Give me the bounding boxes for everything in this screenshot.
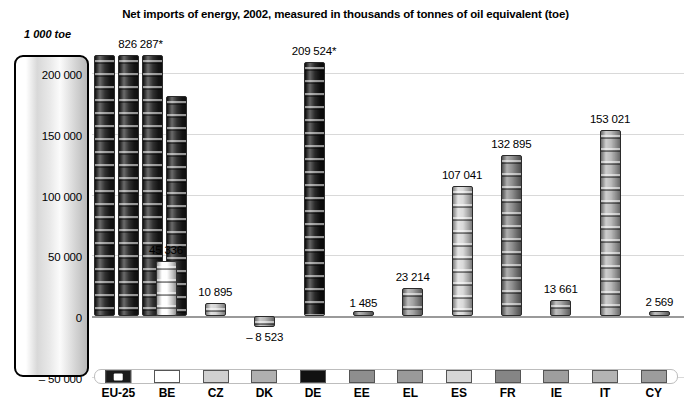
bar-column[interactable] bbox=[649, 311, 670, 316]
color-swatch-icon bbox=[154, 370, 180, 383]
y-axis-tick-label: 0 bbox=[76, 312, 82, 324]
legend-item-cy[interactable]: CY bbox=[641, 369, 667, 400]
y-axis-tick-label: 200 000 bbox=[42, 69, 82, 81]
legend-label: FR bbox=[495, 386, 521, 400]
bar-cy[interactable]: 2 569 bbox=[92, 55, 684, 377]
y-axis-tick-label: 150 000 bbox=[42, 130, 82, 142]
legend-item-de[interactable]: DE bbox=[300, 369, 326, 400]
y-axis-tick-label: 100 000 bbox=[42, 191, 82, 203]
legend-label: EL bbox=[397, 386, 423, 400]
legend-label: EE bbox=[349, 386, 375, 400]
bar-value-label: 826 287* bbox=[118, 38, 162, 50]
legend-label: BE bbox=[154, 386, 180, 400]
legend-item-ie[interactable]: IE bbox=[543, 369, 569, 400]
plot-area: 826 287*45 33610 895– 8 523209 524*1 485… bbox=[92, 55, 684, 377]
legend-item-ee[interactable]: EE bbox=[349, 369, 375, 400]
color-swatch-icon bbox=[349, 370, 375, 383]
legend-label: EU-25 bbox=[102, 386, 136, 400]
color-swatch-icon bbox=[251, 370, 277, 383]
page-title: Net imports of energy, 2002, measured in… bbox=[0, 8, 691, 20]
legend-track bbox=[94, 369, 678, 384]
color-swatch-icon bbox=[495, 370, 521, 383]
legend-item-be[interactable]: BE bbox=[154, 369, 180, 400]
color-swatch-icon bbox=[446, 370, 472, 383]
bar-value-label: 2 569 bbox=[645, 296, 673, 308]
y-axis-tick-label: – 50 000 bbox=[39, 373, 82, 385]
legend-label: DE bbox=[300, 386, 326, 400]
color-swatch-icon bbox=[543, 370, 569, 383]
y-axis-tick-label: 50 000 bbox=[48, 251, 82, 263]
legend-item-el[interactable]: EL bbox=[397, 369, 423, 400]
color-swatch-icon bbox=[203, 370, 229, 383]
color-swatch-icon bbox=[592, 370, 618, 383]
legend-item-dk[interactable]: DK bbox=[251, 369, 277, 400]
eu-stars-icon bbox=[114, 373, 123, 380]
y-axis-unit-label: 1 000 toe bbox=[24, 28, 71, 40]
legend-item-es[interactable]: ES bbox=[446, 369, 472, 400]
color-swatch-icon bbox=[397, 370, 423, 383]
legend-label: DK bbox=[251, 386, 277, 400]
legend-label: ES bbox=[446, 386, 472, 400]
legend-item-eu-25[interactable]: EU-25 bbox=[102, 369, 136, 400]
color-swatch-icon bbox=[300, 370, 326, 383]
legend-item-cz[interactable]: CZ bbox=[203, 369, 229, 400]
y-axis-scale-box: 200 000150 000100 00050 0000– 50 000 bbox=[14, 55, 89, 377]
legend-label: IT bbox=[592, 386, 618, 400]
legend-label: CZ bbox=[203, 386, 229, 400]
legend-label: IE bbox=[543, 386, 569, 400]
legend-item-fr[interactable]: FR bbox=[495, 369, 521, 400]
color-swatch-icon bbox=[641, 370, 667, 383]
legend-item-it[interactable]: IT bbox=[592, 369, 618, 400]
legend-label: CY bbox=[641, 386, 667, 400]
eu-flag-icon bbox=[105, 370, 131, 383]
